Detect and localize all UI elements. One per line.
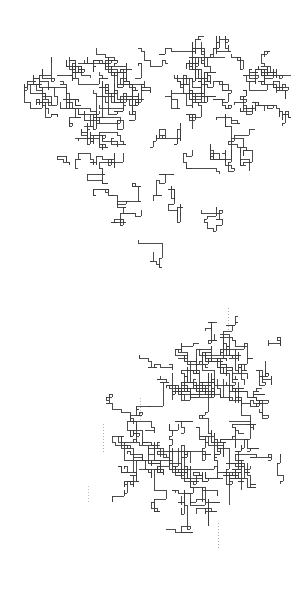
cluster-segments <box>106 316 283 532</box>
cluster-segments <box>24 36 291 267</box>
upper-cluster-plot <box>0 0 298 303</box>
lower-cluster-plot <box>0 303 298 607</box>
lower-cluster-panel <box>0 303 298 607</box>
upper-cluster-panel <box>0 0 298 303</box>
figure-container <box>0 0 298 607</box>
